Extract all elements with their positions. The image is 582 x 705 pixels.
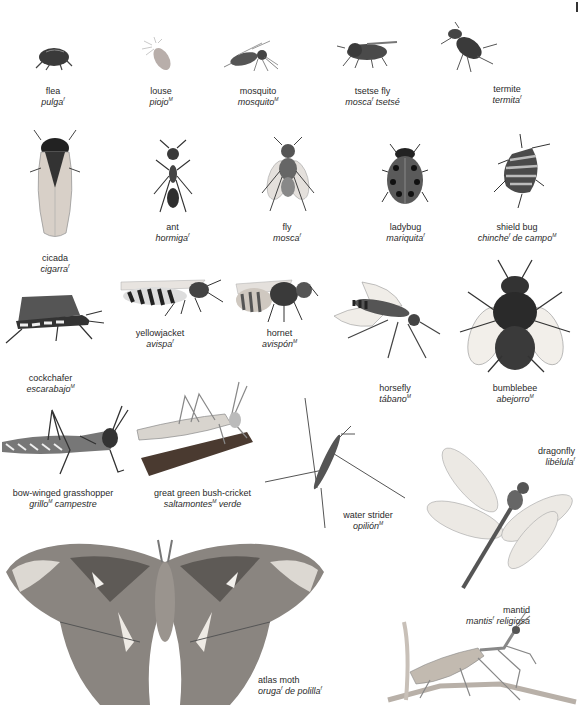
label-hornet: hornet avispónM xyxy=(252,328,307,350)
label-en: louse xyxy=(136,86,186,97)
label-en: bumblebee xyxy=(485,383,545,394)
water-strider-illustration xyxy=(265,398,405,528)
label-en: great green bush-cricket xyxy=(145,488,260,499)
label-bow-winged-grasshopper: bow-winged grasshopper grilloM campestre xyxy=(8,488,118,510)
cockchafer-illustration xyxy=(2,285,107,345)
label-ladybug: ladybug mariquitaf xyxy=(378,222,433,244)
termite-illustration xyxy=(437,18,502,78)
page-edge-mark xyxy=(576,2,578,12)
label-es: moscaf tsetsé xyxy=(340,97,405,108)
label-es: avispónM xyxy=(252,339,307,350)
label-en: yellowjacket xyxy=(120,328,200,339)
label-es: pulgaf xyxy=(28,97,78,108)
label-dragonfly: dragonfly libélulaf xyxy=(510,446,575,468)
bumblebee-illustration xyxy=(458,256,573,376)
label-es: chinchef de campoM xyxy=(462,233,572,244)
label-en: bow-winged grasshopper xyxy=(8,488,118,499)
label-es: mariquitaf xyxy=(378,233,433,244)
label-en: flea xyxy=(28,86,78,97)
label-termite: termite termitaf xyxy=(482,84,532,106)
label-en: ant xyxy=(145,222,200,233)
label-mosquito: mosquito mosquitoM xyxy=(228,86,288,108)
label-ant: ant hormigaf xyxy=(145,222,200,244)
label-es: mosquitoM xyxy=(228,97,288,108)
label-en: mosquito xyxy=(228,86,288,97)
label-es: orugaf de polillaf xyxy=(258,686,338,697)
label-yellowjacket: yellowjacket avispaf xyxy=(120,328,200,350)
ladybug-illustration xyxy=(380,142,430,212)
mosquito-illustration xyxy=(222,35,287,75)
hornet-illustration xyxy=(232,272,322,327)
label-en: cicada xyxy=(30,253,80,264)
label-es: abejorroM xyxy=(485,394,545,405)
label-en: dragonfly xyxy=(510,446,575,457)
label-es: mantisf religiosa xyxy=(448,616,530,627)
label-es: termitaf xyxy=(482,95,532,106)
label-en: fly xyxy=(262,222,312,233)
label-bumblebee: bumblebee abejorroM xyxy=(485,383,545,405)
label-tsetse-fly: tsetse fly moscaf tsetsé xyxy=(340,86,405,108)
great-green-bush-cricket-illustration xyxy=(135,378,260,478)
label-es: saltamontesM verde xyxy=(145,499,260,510)
label-fly: fly moscaf xyxy=(262,222,312,244)
label-es: hormigaf xyxy=(145,233,200,244)
label-en: hornet xyxy=(252,328,307,339)
cicada-illustration xyxy=(28,128,83,243)
label-es: avispaf xyxy=(120,339,200,350)
label-great-green-bush-cricket: great green bush-cricket saltamontesM ve… xyxy=(145,488,260,510)
label-es: opiliónM xyxy=(338,521,398,532)
label-en: horsefly xyxy=(370,383,420,394)
label-flea: flea pulgaf xyxy=(28,86,78,108)
louse-illustration xyxy=(140,35,180,75)
flea-illustration xyxy=(32,42,77,72)
label-es: grilloM campestre xyxy=(8,499,118,510)
label-shield-bug: shield bug chinchef de campoM xyxy=(462,222,572,244)
label-cockchafer: cockchafer escarabajoM xyxy=(18,373,83,395)
tsetse-fly-illustration xyxy=(337,36,402,71)
ant-illustration xyxy=(148,138,198,218)
shield-bug-illustration xyxy=(492,130,552,210)
label-es: moscaf xyxy=(262,233,312,244)
label-atlas-moth: atlas moth orugaf de polillaf xyxy=(258,675,338,697)
label-mantid: mantid mantisf religiosa xyxy=(448,605,530,627)
label-en: atlas moth xyxy=(258,675,338,686)
bow-winged-grasshopper-illustration xyxy=(0,400,130,475)
label-en: mantid xyxy=(448,605,530,616)
label-water-strider: water strider opiliónM xyxy=(338,510,398,532)
label-es: cigarraf xyxy=(30,264,80,275)
label-es: escarabajoM xyxy=(18,384,83,395)
fly-illustration xyxy=(258,135,318,215)
label-cicada: cicada cigarraf xyxy=(30,253,80,275)
label-es: libélulaf xyxy=(510,457,575,468)
yellowjacket-illustration xyxy=(115,272,230,317)
label-es: piojoM xyxy=(136,97,186,108)
label-en: water strider xyxy=(338,510,398,521)
label-louse: louse piojoM xyxy=(136,86,186,108)
horsefly-illustration xyxy=(332,276,447,361)
label-en: termite xyxy=(482,84,532,95)
